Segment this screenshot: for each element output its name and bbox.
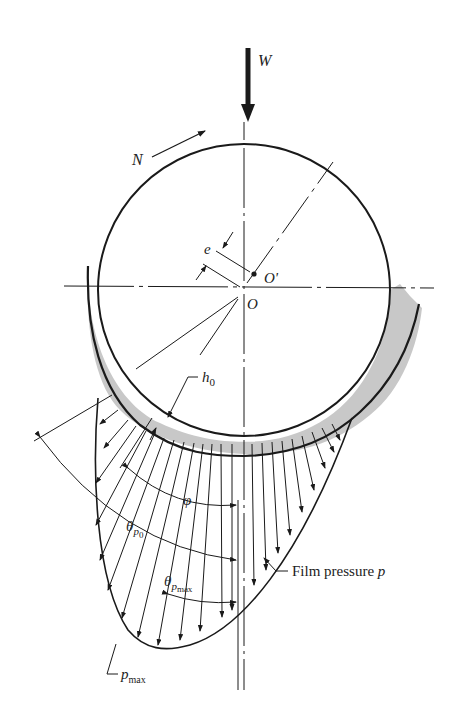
phi-label: φ [183,492,191,508]
bearing-surface [88,266,419,456]
journal-center-label: O' [264,270,279,286]
bearing-center-label: O [247,296,258,312]
theta-pmax-label: θpmax [164,573,193,594]
eccentricity-label: e [204,241,211,257]
journal-center-dot [251,271,256,276]
rotation-arrow [152,131,205,157]
ray-phi [200,299,238,355]
load-arrow [241,48,255,122]
ray-theta-p0 [136,297,238,369]
journal-bearing-diagram: W N O' O e h0 [0,0,454,709]
horizontal-centerline [64,286,434,288]
rotation-label: N [131,151,144,168]
load-label: W [258,52,273,69]
pmax-label: pmax [120,666,146,685]
line-of-centers [247,162,333,283]
pmax-leader [107,644,118,674]
phi-extension [120,418,152,468]
phi-arc [128,468,236,506]
film-pressure-label: Film pressure p [292,563,386,579]
theta-p0-extension [34,395,112,441]
h0-label: h0 [202,369,216,388]
theta-p0-arc [40,437,236,560]
